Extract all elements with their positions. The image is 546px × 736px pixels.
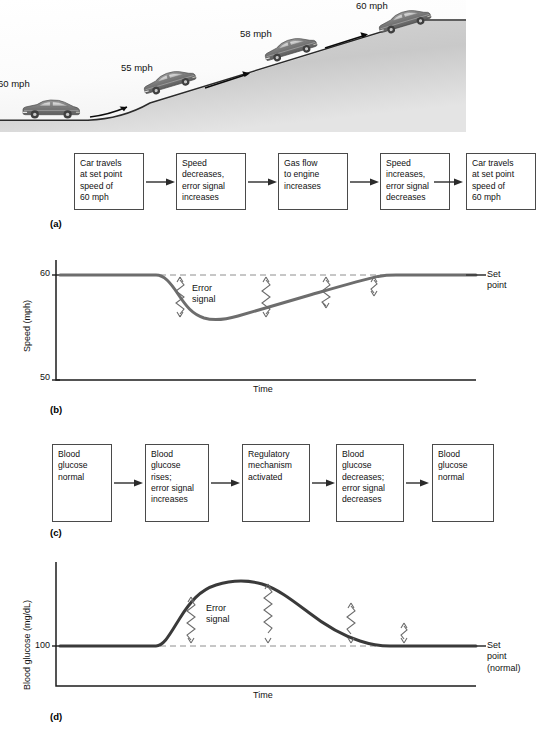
hill-scene-svg [0, 0, 466, 132]
flow-a-arrows [144, 172, 536, 192]
panel-letter-b: (b) [50, 404, 62, 415]
speed-label-2: 55 mph [121, 62, 153, 73]
panel-letter-d: (d) [50, 711, 62, 722]
flow-c-box-5[interactable]: Blood glucose normal [432, 444, 494, 522]
speed-label-3: 58 mph [240, 28, 272, 39]
graph-b-error-label: Error signal [192, 283, 216, 306]
graph-d-error-arrow-2 [264, 584, 272, 643]
flow-a-box-1[interactable]: Car travels at set point speed of 60 mph [74, 153, 144, 210]
speed-label-4: 60 mph [356, 0, 388, 11]
flow-c-arrows [112, 474, 440, 492]
graph-b-y-axis-title: Speed (mph) [22, 300, 32, 352]
graph-b-ytick-50: 50 [26, 372, 50, 382]
graph-b-x-axis-title: Time [253, 384, 273, 394]
graph-d-x-axis-title: Time [253, 690, 273, 700]
graph-b-error-arrow-4 [371, 277, 377, 296]
graph-b-setpoint-leader [466, 270, 486, 280]
graph-b-svg [52, 258, 492, 386]
graph-d-setpoint-label: Set point (normal) [487, 640, 521, 674]
panel-letter-a: (a) [50, 218, 62, 229]
graph-d-ytick-100: 100 [20, 640, 50, 650]
flow-c-box-1[interactable]: Blood glucose normal [52, 444, 112, 522]
graph-d-error-arrow-4 [401, 623, 407, 643]
graph-d-plot [52, 560, 492, 700]
graph-d-setpoint-leader [466, 641, 486, 651]
graph-b-ytick-60: 60 [26, 268, 50, 278]
graph-b-setpoint-label: Set point [487, 269, 507, 292]
panel-letter-c: (c) [50, 527, 62, 538]
graph-b-error-arrow-2 [262, 277, 270, 317]
graph-d-error-label: Error signal [206, 603, 230, 626]
graph-d-svg [52, 560, 492, 700]
car-hill-illustration: 60 mph 55 mph 58 mph 60 mph [0, 0, 466, 132]
graph-b-error-arrow-3 [322, 277, 330, 308]
speed-label-1: 60 mph [0, 78, 30, 89]
graph-b-plot [52, 258, 492, 386]
panel-a: 60 mph 55 mph 58 mph 60 mph Car travels … [0, 0, 466, 132]
